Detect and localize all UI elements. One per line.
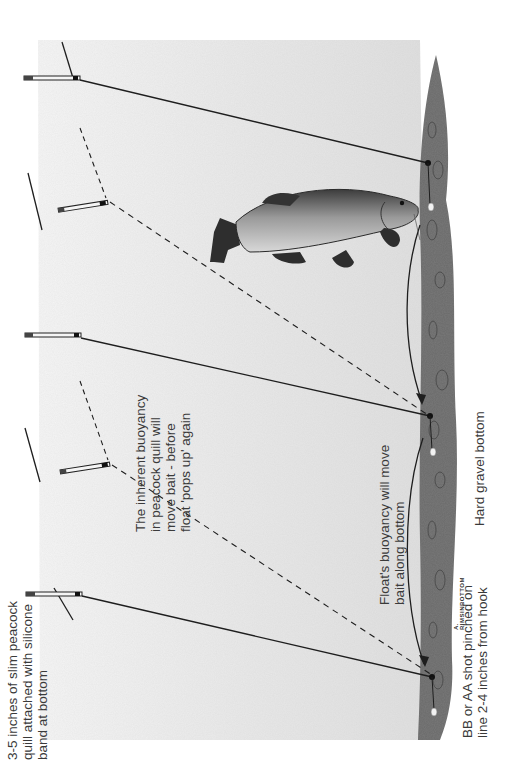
label-quill-line-2: quill attached with silicone <box>20 601 35 760</box>
label-quill-line-3: band at bottom <box>35 601 50 760</box>
label-float-buoyancy-line-1: Float's buoyancy will move <box>377 445 392 605</box>
label-inherent-buoyancy-line-2: in peacock quill will <box>148 395 163 532</box>
label-hard-gravel-bottom: Hard gravel bottom <box>472 411 487 526</box>
fishing-rig-diagram <box>0 0 507 778</box>
label-quill-line-1: 3-5 inches of slim peacock <box>5 601 20 760</box>
label-inherent-buoyancy-line-1: The inherent buoyancy <box>133 395 148 532</box>
label-inherent-buoyancy-line-4: float 'pops up' again <box>178 395 193 532</box>
label-quill: 3-5 inches of slim peacock quill attache… <box>5 601 50 760</box>
label-inherent-buoyancy: The inherent buoyancy in peacock quill w… <box>133 395 193 532</box>
label-float-buoyancy: Float's buoyancy will move bait along bo… <box>377 445 407 605</box>
label-float-buoyancy-line-2: bait along bottom <box>392 445 407 605</box>
label-hard-gravel-bottom-line-1: Hard gravel bottom <box>472 411 487 526</box>
label-inherent-buoyancy-line-3: move bait - before <box>163 395 178 532</box>
artist-signature: A. RIMSINBOTTOM <box>453 576 465 630</box>
label-shot-line-2: line 2-4 inches from hook <box>475 585 490 738</box>
